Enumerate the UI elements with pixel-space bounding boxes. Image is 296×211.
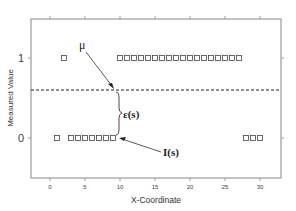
data-point-square [230, 56, 235, 61]
data-point-square [146, 56, 151, 61]
x-tick-label: 10 [117, 184, 124, 190]
x-tick-label: 25 [222, 184, 229, 190]
data-point-square [216, 56, 221, 61]
I-arrow [122, 139, 161, 152]
mu-label: μ [79, 38, 85, 52]
data-point-square [118, 56, 123, 61]
y-tick-label: 0 [18, 132, 24, 144]
data-point-square [132, 56, 137, 61]
data-point-square [76, 136, 81, 141]
y-tick-label: 1 [18, 52, 24, 64]
data-point-square [125, 56, 130, 61]
data-point-square [69, 136, 74, 141]
data-point-square [188, 56, 193, 61]
axis-ticks: 05101520253001 [18, 16, 284, 190]
data-point-square [251, 136, 256, 141]
data-point-square [167, 56, 172, 61]
plot-border [31, 19, 281, 178]
data-point-square [223, 56, 228, 61]
x-tick-label: 0 [48, 184, 52, 190]
data-point-square [55, 136, 60, 141]
data-point-square [97, 136, 102, 141]
y-axis-label: Measured Value [6, 69, 15, 127]
data-point-square [181, 56, 186, 61]
x-tick-label: 15 [152, 184, 159, 190]
I-label: I(s) [163, 146, 179, 159]
x-tick-label: 30 [257, 184, 264, 190]
data-points [55, 56, 263, 141]
data-point-square [174, 56, 179, 61]
data-point-square [90, 136, 95, 141]
epsilon-label: ε(s) [123, 108, 140, 121]
x-tick-label: 5 [83, 184, 87, 190]
data-point-square [244, 136, 249, 141]
data-point-square [258, 136, 263, 141]
data-point-square [139, 56, 144, 61]
mu-arrowhead [108, 83, 114, 89]
data-point-square [237, 56, 242, 61]
data-point-square [83, 136, 88, 141]
data-point-square [111, 136, 116, 141]
epsilon-brace [116, 92, 122, 135]
data-point-square [104, 136, 109, 141]
data-point-square [153, 56, 158, 61]
data-point-square [160, 56, 165, 61]
data-point-square [202, 56, 207, 61]
mu-arrow [86, 52, 112, 86]
x-axis-label: X-Coordinate [131, 195, 181, 205]
data-point-square [62, 56, 67, 61]
data-point-square [209, 56, 214, 61]
chart: 05101520253001 μ ε(s) I(s) X-Coordinate … [0, 0, 296, 211]
x-tick-label: 20 [187, 184, 194, 190]
data-point-square [195, 56, 200, 61]
plot-frame [31, 19, 281, 178]
